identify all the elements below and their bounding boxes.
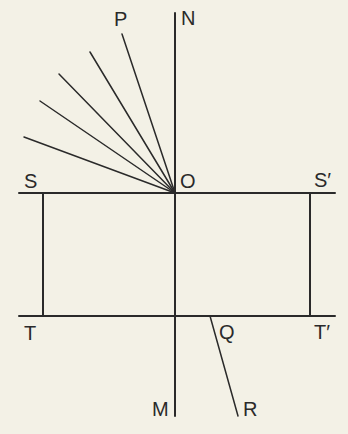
ray-2 xyxy=(90,52,175,193)
label-T: T xyxy=(24,323,36,343)
ray-OP xyxy=(122,34,175,193)
ray-3 xyxy=(59,74,175,193)
label-M: M xyxy=(152,399,169,419)
label-S: S xyxy=(24,171,37,191)
label-N: N xyxy=(181,8,195,28)
label-O: O xyxy=(180,171,196,191)
label-Q: Q xyxy=(219,322,235,342)
geometry-diagram xyxy=(0,0,348,434)
label-T-prime: T′ xyxy=(314,322,330,342)
ray-4 xyxy=(40,101,175,193)
ray-5 xyxy=(24,137,175,193)
label-R: R xyxy=(243,399,257,419)
label-S-prime: S′ xyxy=(314,170,331,190)
label-P: P xyxy=(114,9,127,29)
